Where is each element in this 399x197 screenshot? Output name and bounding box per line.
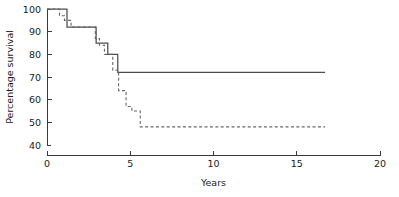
x-tick-label-0: 0 [44, 158, 50, 169]
y-tick-label-80: 80 [29, 49, 41, 60]
x-tick-label-5: 5 [127, 158, 133, 169]
kaplan-meier-plot: 100 90 80 70 60 50 40 0 5 10 15 20 Years… [0, 0, 399, 197]
x-axis-ticks [130, 151, 297, 156]
y-tick-label-100: 100 [23, 4, 41, 15]
y-axis-title: Percentage survival [4, 30, 15, 124]
y-tick-label-70: 70 [29, 72, 41, 83]
x-axis-title: Years [200, 177, 226, 188]
x-tick-label-15: 15 [291, 158, 303, 169]
survival-chart: 100 90 80 70 60 50 40 0 5 10 15 20 Years… [0, 0, 399, 197]
y-tick-label-40: 40 [29, 140, 41, 151]
x-tick-label-20: 20 [374, 158, 386, 169]
y-tick-label-60: 60 [29, 94, 41, 105]
survival-curve-solid [47, 9, 325, 72]
x-tick-label-10: 10 [207, 158, 219, 169]
y-tick-label-50: 50 [29, 117, 41, 128]
y-axis-ticks [47, 32, 52, 123]
y-tick-label-90: 90 [29, 26, 41, 37]
survival-curve-dashed [47, 9, 325, 127]
